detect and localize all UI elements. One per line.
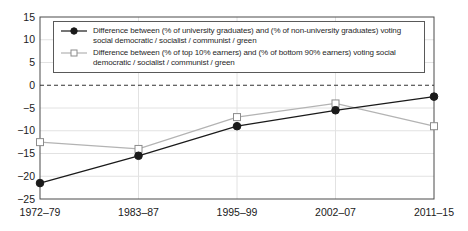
y-tick-label: −5 [23,102,35,114]
y-tick-label: 10 [23,33,35,45]
x-tick-label: 1972–79 [20,206,61,218]
legend: Difference between (% of university grad… [53,21,425,73]
y-tick-label: 0 [29,79,35,91]
filled-circle-point [430,93,438,101]
open-square-point [37,139,44,146]
filled-circle-point [332,106,340,114]
y-tick-label: −25 [17,193,35,205]
legend-label: Difference between (% of top 10% earners… [93,48,418,67]
legend-item-income-gap: Difference between (% of top 10% earners… [61,48,418,67]
x-tick-label: 1983–87 [118,206,159,218]
filled-circle-point [233,122,241,130]
y-tick-label: −15 [17,147,35,159]
y-tick-label: 15 [23,11,35,23]
open-square-point [234,114,241,121]
filled-circle-point [36,179,44,187]
line-chart-figure: 151050−5−10−15−20−251972–791983–871995–9… [0,0,468,231]
y-tick-label: 5 [29,56,35,68]
y-tick-label: −20 [17,170,35,182]
x-tick-label: 2002–07 [315,206,356,218]
open-square-point [431,123,438,130]
x-tick-label: 1995–99 [217,206,258,218]
legend-label: Difference between (% of university grad… [93,26,418,45]
filled-circle-point [135,152,143,160]
open-square-marker [61,48,87,58]
legend-marker-circle [71,28,77,34]
filled-circle-marker [61,26,87,36]
y-tick-label: −10 [17,124,35,136]
open-square-point [332,100,339,107]
legend-item-education-gap: Difference between (% of university grad… [61,26,418,45]
open-square-point [135,145,142,152]
legend-marker-square [71,50,77,56]
x-tick-label: 2011–15 [414,206,454,218]
